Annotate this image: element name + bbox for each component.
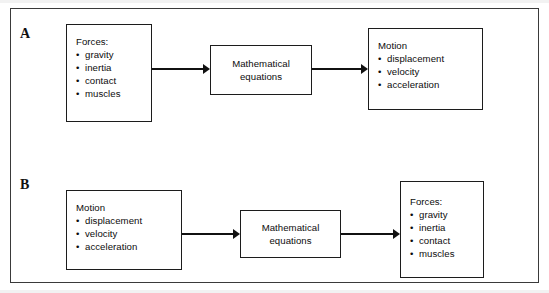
bullet-icon: • [76, 214, 79, 227]
list-item-label: gravity [419, 209, 448, 220]
panel-a-forces-title: Forces: [76, 35, 121, 48]
list-item-label: inertia [419, 222, 445, 233]
list-item-label: velocity [387, 66, 419, 77]
list-item: •acceleration [378, 78, 444, 91]
list-item-label: contact [419, 235, 450, 246]
panel-b-arrow-motion-to-equations [182, 228, 242, 240]
list-item-label: muscles [85, 88, 121, 99]
bullet-icon: • [76, 87, 79, 100]
arrow-shaft [182, 233, 233, 235]
list-item-label: acceleration [85, 241, 137, 252]
bullet-icon: • [410, 247, 413, 260]
panel-b-forces-list: •gravity •inertia •contact •muscles [410, 208, 455, 260]
panel-b-motion-list: •displacement •velocity •acceleration [76, 214, 142, 253]
list-item-label: acceleration [387, 79, 439, 90]
bullet-icon: • [378, 52, 381, 65]
arrow-shaft [312, 68, 361, 70]
arrow-head-icon [393, 229, 400, 239]
arrow-head-icon [203, 64, 210, 74]
panel-label-b: B [20, 178, 29, 192]
list-item-label: gravity [85, 49, 114, 60]
panel-a-forces-box: Forces: •gravity •inertia •contact •musc… [66, 24, 152, 122]
list-item: •gravity [76, 48, 121, 61]
list-item: •contact [410, 234, 455, 247]
panel-b-motion-content: Motion •displacement •velocity •accelera… [76, 201, 142, 253]
panel-b-forces-content: Forces: •gravity •inertia •contact •musc… [410, 195, 455, 260]
arrow-head-icon [233, 229, 240, 239]
bullet-icon: • [76, 227, 79, 240]
bullet-icon: • [76, 48, 79, 61]
list-item: •muscles [76, 87, 121, 100]
bullet-icon: • [410, 208, 413, 221]
list-item-label: velocity [85, 228, 117, 239]
panel-a-forces-content: Forces: •gravity •inertia •contact •musc… [76, 35, 121, 100]
panel-b-equations-content: Mathematical equations [262, 221, 320, 247]
list-item-label: inertia [85, 62, 111, 73]
bullet-icon: • [378, 78, 381, 91]
panel-a-motion-content: Motion •displacement •velocity •accelera… [378, 39, 444, 91]
bullet-icon: • [76, 74, 79, 87]
panel-a-forces-list: •gravity •inertia •contact •muscles [76, 48, 121, 100]
panel-a-mathematical-equations-box: Mathematical equations [210, 45, 312, 95]
list-item: •displacement [76, 214, 142, 227]
panel-b-equations-line-2: equations [262, 234, 320, 247]
panel-b-forces-box: Forces: •gravity •inertia •contact •musc… [400, 181, 484, 278]
bullet-icon: • [410, 221, 413, 234]
list-item-label: contact [85, 75, 116, 86]
list-item: •muscles [410, 247, 455, 260]
panel-b-equations-line-1: Mathematical [262, 221, 320, 234]
list-item-label: displacement [387, 53, 444, 64]
figure-canvas: A Forces: •gravity •inertia •contact •mu… [0, 0, 549, 293]
panel-a-equations-content: Mathematical equations [232, 57, 290, 83]
list-item-label: muscles [419, 248, 455, 259]
panel-a-equations-line-1: Mathematical [232, 57, 290, 70]
panel-a-motion-list: •displacement •velocity •acceleration [378, 52, 444, 91]
bullet-icon: • [378, 65, 381, 78]
arrow-head-icon [361, 64, 368, 74]
scan-edge-top [0, 0, 549, 3]
panel-a-arrow-equations-to-motion [312, 63, 370, 75]
panel-b-motion-title: Motion [76, 201, 142, 214]
panel-b-motion-box: Motion •displacement •velocity •accelera… [66, 190, 182, 270]
arrow-shaft [152, 68, 203, 70]
panel-a-motion-box: Motion •displacement •velocity •accelera… [368, 28, 483, 110]
panel-a-arrow-forces-to-equations [152, 63, 210, 75]
list-item: •acceleration [76, 240, 142, 253]
panel-a-motion-title: Motion [378, 39, 444, 52]
panel-b-arrow-equations-to-forces [341, 228, 401, 240]
list-item: •inertia [76, 61, 121, 74]
list-item: •displacement [378, 52, 444, 65]
list-item-label: displacement [85, 215, 142, 226]
panel-a-equations-line-2: equations [232, 70, 290, 83]
bullet-icon: • [410, 234, 413, 247]
panel-b-mathematical-equations-box: Mathematical equations [240, 210, 341, 258]
list-item: •velocity [76, 227, 142, 240]
list-item: •gravity [410, 208, 455, 221]
panel-b-forces-title: Forces: [410, 195, 455, 208]
bullet-icon: • [76, 240, 79, 253]
list-item: •inertia [410, 221, 455, 234]
list-item: •contact [76, 74, 121, 87]
panel-label-a: A [20, 27, 30, 41]
bullet-icon: • [76, 61, 79, 74]
list-item: •velocity [378, 65, 444, 78]
arrow-shaft [341, 233, 393, 235]
